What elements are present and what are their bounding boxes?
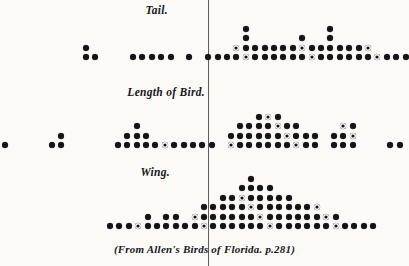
data-dot	[342, 223, 348, 229]
data-dot	[275, 114, 281, 120]
data-dot	[304, 214, 310, 220]
data-dot	[171, 142, 177, 148]
data-dot	[350, 123, 356, 129]
data-dot	[267, 223, 273, 229]
data-dot	[186, 54, 192, 60]
data-dot	[239, 214, 245, 220]
data-dot	[327, 45, 333, 51]
data-dot	[162, 142, 168, 148]
data-dot	[295, 204, 301, 210]
data-dot	[299, 54, 305, 60]
data-dot	[145, 214, 151, 220]
data-dot	[243, 45, 249, 51]
data-dot	[173, 223, 179, 229]
data-dot	[83, 45, 89, 51]
data-dot	[284, 142, 290, 148]
data-dot	[248, 195, 254, 201]
data-dot	[309, 54, 315, 60]
data-dot	[271, 54, 277, 60]
data-dot	[243, 26, 249, 32]
data-dot	[312, 133, 318, 139]
data-dot	[257, 204, 263, 210]
data-dot	[2, 142, 8, 148]
data-dot	[256, 123, 262, 129]
data-dot	[350, 142, 356, 148]
data-dot	[143, 133, 149, 139]
data-dot	[228, 133, 234, 139]
data-dot	[340, 123, 346, 129]
data-dot	[327, 26, 333, 32]
data-dot	[248, 185, 254, 191]
data-dot	[314, 223, 320, 229]
data-dot	[92, 54, 98, 60]
data-dot	[370, 223, 376, 229]
data-dot	[276, 195, 282, 201]
data-dot	[248, 214, 254, 220]
data-dot	[229, 214, 235, 220]
data-dot	[275, 133, 281, 139]
data-dot	[134, 142, 140, 148]
data-dot	[257, 185, 263, 191]
data-dot	[248, 204, 254, 210]
data-dot	[267, 204, 273, 210]
data-dot	[246, 123, 252, 129]
data-dot	[134, 133, 140, 139]
data-dot	[201, 204, 207, 210]
data-dot	[351, 223, 357, 229]
data-dot	[229, 204, 235, 210]
data-dot	[130, 54, 136, 60]
data-dot	[276, 223, 282, 229]
data-dot	[246, 142, 252, 148]
data-dot	[318, 54, 324, 60]
data-dot	[333, 214, 339, 220]
data-dot	[303, 133, 309, 139]
data-dot	[83, 54, 89, 60]
data-dot	[239, 185, 245, 191]
data-dot	[257, 223, 263, 229]
data-dot	[387, 142, 393, 148]
data-dot	[318, 45, 324, 51]
data-dot	[356, 45, 362, 51]
data-dot	[356, 54, 362, 60]
data-dot	[276, 214, 282, 220]
data-dot	[293, 142, 299, 148]
data-dot	[256, 142, 262, 148]
data-dot	[271, 45, 277, 51]
data-dot	[267, 214, 273, 220]
data-dot	[397, 142, 403, 148]
data-dot	[182, 223, 188, 229]
data-dot	[237, 142, 243, 148]
data-dot	[229, 223, 235, 229]
data-dot	[158, 54, 164, 60]
data-dot	[384, 54, 390, 60]
data-dot	[124, 142, 130, 148]
data-dot	[149, 54, 155, 60]
data-dot	[252, 45, 258, 51]
data-dot	[340, 133, 346, 139]
data-dot	[257, 195, 263, 201]
data-dot	[304, 223, 310, 229]
data-dot	[152, 142, 158, 148]
data-dot	[284, 123, 290, 129]
data-dot	[293, 133, 299, 139]
data-dot	[267, 185, 273, 191]
data-dot	[210, 204, 216, 210]
data-dot	[275, 123, 281, 129]
data-dot	[327, 35, 333, 41]
data-dot	[303, 142, 309, 148]
data-dot	[286, 214, 292, 220]
data-dot	[299, 45, 305, 51]
data-dot	[228, 142, 234, 148]
data-dot	[116, 223, 122, 229]
data-dot	[243, 54, 249, 60]
data-dot	[284, 133, 290, 139]
data-dot	[290, 45, 296, 51]
data-dot	[252, 54, 258, 60]
data-dot	[107, 223, 113, 229]
data-dot	[327, 54, 333, 60]
data-dot	[239, 195, 245, 201]
data-dot	[220, 223, 226, 229]
data-dot	[286, 204, 292, 210]
data-dot	[192, 223, 198, 229]
data-dot	[295, 214, 301, 220]
